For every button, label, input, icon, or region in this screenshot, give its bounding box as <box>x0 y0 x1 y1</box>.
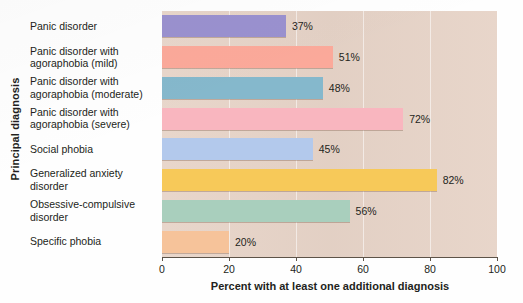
category-label-6-line1: Obsessive-compulsive <box>30 198 158 210</box>
x-tick-20 <box>229 257 230 261</box>
category-label-5-line2: disorder <box>30 180 158 192</box>
category-label-4-line1: Social phobia <box>30 143 158 155</box>
gridline-100 <box>497 11 498 257</box>
category-label-0-line1: Panic disorder <box>30 20 158 32</box>
x-tick-label-0: 0 <box>159 263 165 275</box>
category-label-5-line1: Generalized anxiety <box>30 167 158 179</box>
bar-row: 82% <box>162 165 497 196</box>
x-tick-label-100: 100 <box>488 263 506 275</box>
x-axis-line <box>162 257 498 258</box>
category-label-2-line1: Panic disorder with <box>30 75 158 87</box>
bar-row: 45% <box>162 134 497 165</box>
category-label-1: Panic disorder with agoraphobia (mild) <box>30 42 158 73</box>
category-label-1-line2: agoraphobia (mild) <box>30 57 158 69</box>
x-tick-0 <box>162 257 163 261</box>
y-axis-title-text: Principal diagnosis <box>9 78 21 181</box>
bar-0[interactable] <box>162 15 286 37</box>
x-axis-title: Percent with at least one additional dia… <box>162 280 498 292</box>
y-axis-title: Principal diagnosis <box>2 0 28 258</box>
category-label-5: Generalized anxiety disorder <box>30 165 158 196</box>
bar-row: 72% <box>162 103 497 134</box>
bar-value-label-3: 72% <box>409 113 430 125</box>
x-tick-label-60: 60 <box>357 263 369 275</box>
category-label-7-line1: Specific phobia <box>30 235 158 247</box>
bar-value-label-2: 48% <box>329 82 350 94</box>
bar-row: 51% <box>162 42 497 73</box>
x-tick-60 <box>363 257 364 261</box>
bar-7[interactable] <box>162 231 229 253</box>
bar-5[interactable] <box>162 169 437 191</box>
x-tick-40 <box>296 257 297 261</box>
bar-value-label-4: 45% <box>319 143 340 155</box>
bar-1[interactable] <box>162 46 333 68</box>
bar-value-label-0: 37% <box>292 20 313 32</box>
category-label-3-line1: Panic disorder with <box>30 106 158 118</box>
x-tick-label-40: 40 <box>290 263 302 275</box>
x-tick-label-20: 20 <box>223 263 235 275</box>
bar-value-label-1: 51% <box>339 51 360 63</box>
bar-2[interactable] <box>162 77 323 99</box>
x-tick-80 <box>430 257 431 261</box>
category-label-4: Social phobia <box>30 134 158 165</box>
category-label-1-line1: Panic disorder with <box>30 45 158 57</box>
bar-row: 56% <box>162 196 497 227</box>
bar-value-label-7: 20% <box>235 236 256 248</box>
bar-row: 37% <box>162 11 497 42</box>
category-label-7: Specific phobia <box>30 226 158 257</box>
bar-value-label-5: 82% <box>443 174 464 186</box>
category-label-0: Panic disorder <box>30 11 158 42</box>
bar-4[interactable] <box>162 138 313 160</box>
bar-6[interactable] <box>162 200 350 222</box>
x-tick-100 <box>497 257 498 261</box>
category-label-2-line2: agoraphobia (moderate) <box>30 88 158 100</box>
category-label-6: Obsessive-compulsive disorder <box>30 195 158 226</box>
x-tick-label-80: 80 <box>424 263 436 275</box>
category-label-6-line2: disorder <box>30 211 158 223</box>
bar-value-label-6: 56% <box>356 205 377 217</box>
bar-row: 20% <box>162 226 497 257</box>
category-label-3-line2: agoraphobia (severe) <box>30 118 158 130</box>
bar-3[interactable] <box>162 108 403 130</box>
bar-row: 48% <box>162 73 497 104</box>
category-label-3: Panic disorder with agoraphobia (severe) <box>30 103 158 134</box>
plot-area: 37%51%48%72%45%82%56%20% <box>162 11 497 257</box>
category-label-2: Panic disorder with agoraphobia (moderat… <box>30 72 158 103</box>
bar-chart-figure: Principal diagnosis Panic disorder Panic… <box>0 0 523 303</box>
category-label-column: Panic disorder Panic disorder with agora… <box>30 11 158 257</box>
